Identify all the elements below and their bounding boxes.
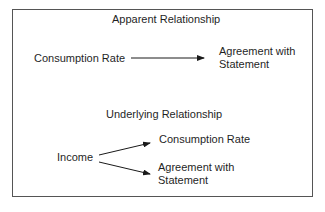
underlying-arrow-to-agreement-icon [99,162,150,174]
underlying-arrow-to-consumption-icon [99,143,150,155]
arrows-layer [0,0,325,212]
